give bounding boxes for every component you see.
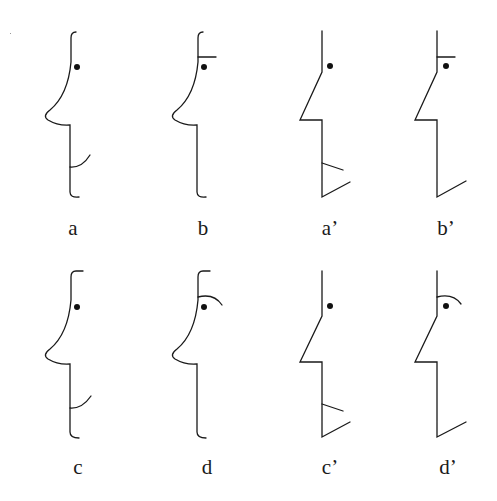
face-b-prime-eye xyxy=(443,63,449,69)
face-d-prime-eye xyxy=(443,303,449,309)
label-d: d xyxy=(202,455,213,480)
face-b-prime-profile xyxy=(415,31,466,197)
label-b: b xyxy=(198,216,209,241)
face-c-mouth xyxy=(70,396,91,408)
face-c-eye xyxy=(74,304,80,310)
panel-c-prime-face xyxy=(300,271,350,437)
label-d-prime: d’ xyxy=(439,455,457,480)
face-c-profile xyxy=(45,271,83,438)
label-a-prime: a’ xyxy=(322,216,338,241)
face-a-prime-mouth xyxy=(322,163,343,170)
face-a-prime-eye xyxy=(327,63,333,69)
face-profiles-figure xyxy=(0,0,497,501)
label-c: c xyxy=(73,455,82,480)
panel-c-face xyxy=(45,271,91,438)
face-d-eye xyxy=(201,304,207,310)
panel-b-face xyxy=(172,32,216,197)
label-c-prime: c’ xyxy=(322,455,338,480)
label-a: a xyxy=(68,216,77,241)
face-a-mouth xyxy=(70,155,90,167)
panel-b-prime-face xyxy=(415,31,466,197)
panel-d-prime-face xyxy=(415,271,466,437)
label-b-prime: b’ xyxy=(437,216,455,241)
face-c-prime-profile xyxy=(300,271,350,437)
face-d-brow xyxy=(198,296,222,305)
face-a-prime-profile xyxy=(300,31,350,197)
panel-d-face xyxy=(172,271,222,438)
panel-a-prime-face xyxy=(300,31,350,197)
face-c-prime-eye xyxy=(327,303,333,309)
face-a-eye xyxy=(74,64,80,70)
face-d-prime-brow xyxy=(437,296,461,304)
face-b-eye xyxy=(201,64,207,70)
panel-a-face xyxy=(45,32,90,197)
face-c-prime-mouth xyxy=(322,404,343,411)
face-a-profile xyxy=(45,32,79,197)
